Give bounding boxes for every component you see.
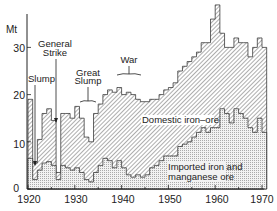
svg-text:War: War — [120, 54, 137, 65]
x-tick-label-1930: 1930 — [64, 193, 88, 205]
y-tick-label-10: 10 — [13, 138, 25, 150]
x-tick-label-1950: 1950 — [158, 193, 182, 205]
x-tick-label-1960: 1960 — [205, 193, 229, 205]
x-tick-label-1920: 1920 — [17, 193, 41, 205]
svg-text:Slump: Slump — [75, 75, 102, 86]
series-label-imported-line2: manganese ore — [168, 171, 234, 182]
y-tick-label-30: 30 — [13, 42, 25, 54]
svg-text:Strike: Strike — [43, 47, 67, 58]
iron-ore-supply-chart: Mt 0 10 20 30 1920 1930 1940 1950 1960 1… — [0, 0, 277, 211]
annotation-great-slump: Great Slump — [75, 67, 102, 102]
annotation-war: War — [117, 54, 141, 75]
y-tick-label-20: 20 — [13, 89, 25, 101]
series-label-domestic: Domestic iron–ore — [142, 114, 219, 125]
y-axis-unit: Mt — [6, 24, 17, 35]
svg-text:Slump: Slump — [28, 73, 55, 84]
x-tick-label-1970: 1970 — [250, 193, 274, 205]
x-tick-label-1940: 1940 — [111, 193, 135, 205]
